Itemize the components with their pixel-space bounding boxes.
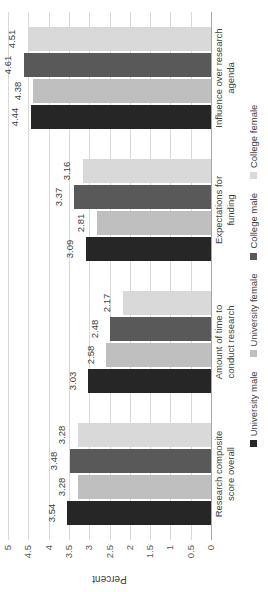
legend-swatch-icon [250,253,257,260]
bar[interactable] [106,343,211,367]
bar[interactable] [110,317,211,341]
axis-baseline [211,12,212,540]
legend-swatch-icon [250,172,257,179]
chart-legend: University maleUniversity femaleCollege … [248,12,259,540]
bar-groups: 3.543.283.483.283.032.582.482.173.092.81… [8,12,211,540]
bar[interactable] [70,449,211,473]
legend-item[interactable]: College male [248,193,259,259]
y-axis-tick-label: 0 [206,545,216,550]
bar-value-label: 4.44 [10,108,20,127]
bar[interactable] [28,27,211,51]
bar-value-label: 3.09 [65,240,75,259]
category-label-line: agenda [225,14,237,142]
bar-value-label: 3.37 [53,188,63,207]
bar-value-label: 3.54 [46,504,56,523]
category-label: Amount of time toconduct research [213,276,237,408]
y-axis-tick-label: 4.5 [24,545,34,558]
bar-value-label: 3.16 [62,162,72,181]
y-axis-tick-label: 0.5 [186,545,196,558]
category-label-line: score overall [225,410,237,538]
category-label-line: Expectations for [213,146,225,274]
bar-value-label: 2.17 [102,294,112,313]
rotated-chart-frame: Percent 54.543.532.521.510.50 3.543.283.… [0,0,268,592]
y-axis-tick-label: 1 [166,545,176,550]
legend-swatch-icon [250,440,257,447]
y-axis-tick-label: 3.5 [64,545,74,558]
bar-slot: 3.28 [8,475,211,499]
bar[interactable] [88,369,211,393]
y-axis-title-label: Percent [92,575,126,586]
bar-slot: 2.48 [8,317,211,341]
bar-value-label: 3.03 [67,372,77,391]
bar[interactable] [86,237,211,261]
bar[interactable] [78,475,211,499]
category-label-line: Research composite [213,410,225,538]
bar-slot: 4.44 [8,105,211,129]
bar-slot: 2.81 [8,211,211,235]
bar[interactable] [97,211,211,235]
bar-slot: 3.28 [8,423,211,447]
bar[interactable] [31,105,211,129]
bar-value-label: 3.48 [49,452,59,471]
legend-item[interactable]: University male [248,371,259,447]
category-label-line: conduct research [225,278,237,406]
category-label: Expectations forfunding [213,144,237,276]
bar[interactable] [123,291,211,315]
y-axis-tick-label: 4 [44,545,54,550]
bar-slot: 2.58 [8,343,211,367]
bar-group: 3.543.283.483.28 [8,408,211,540]
category-label-line: Influence over research [213,14,225,142]
legend-label: College male [248,193,259,248]
bar[interactable] [24,53,211,77]
category-label-line: Amount of time to [213,278,225,406]
legend-item[interactable]: University female [248,274,259,358]
bar-slot: 3.16 [8,159,211,183]
bar-value-label: 4.61 [3,56,13,75]
bar-group: 4.444.384.614.51 [8,12,211,144]
legend-label: University male [248,371,259,436]
bar-group: 3.032.582.482.17 [8,276,211,408]
bar-slot: 4.38 [8,79,211,103]
y-axis-tick-label: 5 [3,545,13,550]
bar[interactable] [83,159,211,183]
y-axis-tick-label: 1.5 [145,545,155,558]
bar-slot: 4.51 [8,27,211,51]
bar-value-label: 2.48 [89,320,99,339]
bar-slot: 4.61 [8,53,211,77]
plot-area: 54.543.532.521.510.50 3.543.283.483.283.… [8,12,211,540]
bar-value-label: 2.58 [85,346,95,365]
bar-slot: 2.17 [8,291,211,315]
bar[interactable] [74,185,211,209]
category-axis-labels: Research compositescore overallAmount of… [213,12,237,540]
bar-value-label: 3.28 [57,478,67,497]
bar-value-label: 3.28 [57,426,67,445]
y-axis-tick-label: 2.5 [105,545,115,558]
bar-slot: 3.48 [8,449,211,473]
bar-value-label: 4.51 [7,30,17,49]
bar-slot: 3.54 [8,501,211,525]
y-axis-title: Percent [8,572,211,588]
bar[interactable] [67,501,211,525]
bar[interactable] [33,79,211,103]
bar-slot: 3.09 [8,237,211,261]
bar-slot: 3.37 [8,185,211,209]
bar-value-label: 2.81 [76,214,86,233]
bar-slot: 3.03 [8,369,211,393]
bar-value-label: 4.38 [12,82,22,101]
bar[interactable] [78,423,211,447]
y-axis-tick-label: 3 [84,545,94,550]
category-label-line: funding [225,146,237,274]
legend-item[interactable]: College female [248,105,259,179]
legend-swatch-icon [250,350,257,357]
grouped-bar-chart: Percent 54.543.532.521.510.50 3.543.283.… [0,0,268,592]
legend-label: University female [248,274,259,347]
category-label: Research compositescore overall [213,408,237,540]
bar-group: 3.092.813.373.16 [8,144,211,276]
y-axis-tick-label: 2 [125,545,135,550]
legend-label: College female [248,105,259,168]
category-label: Influence over researchagenda [213,12,237,144]
